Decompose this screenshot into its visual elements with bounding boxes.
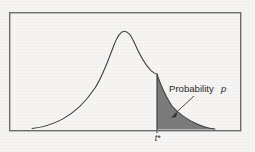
density-curve	[32, 31, 215, 129]
probability-distribution-figure: Probability p t*	[0, 0, 255, 152]
annotation-leader-line	[174, 96, 194, 115]
critical-value-label: t*	[155, 133, 161, 143]
distribution-chart-svg: Probability p t*	[0, 0, 255, 152]
probability-label: Probability	[169, 83, 214, 94]
probability-label-prefix: Probability	[169, 83, 214, 94]
figure-frame-border	[10, 13, 241, 131]
probability-symbol-label: p	[220, 83, 227, 94]
